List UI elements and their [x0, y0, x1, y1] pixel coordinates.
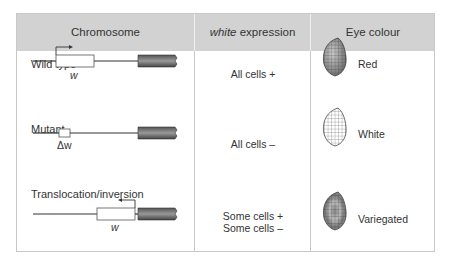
- eye-colour-variegated: Variegated: [358, 213, 408, 225]
- comparison-table: Chromosome white expression Eye colour W…: [16, 13, 435, 252]
